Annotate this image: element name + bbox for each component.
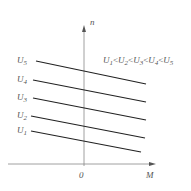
curve-label-u1: U1 [17,125,27,137]
curve-label-u3: U3 [17,92,28,104]
origin-label: 0 [79,170,84,180]
curves: U5U4U3U2U1 [17,55,146,152]
curve-u3 [33,98,146,120]
y-axis-arrow-icon [82,25,86,32]
x-axis-arrow-icon [149,162,156,166]
y-axis-label: n [90,17,95,27]
curve-label-u5: U5 [17,55,28,67]
mechanical-characteristic-diagram: n M 0 U5U4U3U2U1 U1<U2<U3<U4<U5 [0,0,191,191]
curve-u4 [33,80,146,102]
curve-label-u2: U2 [17,110,28,122]
x-axis-label: M [145,170,154,180]
condition-text: U1<U2<U3<U4<U5 [103,55,174,67]
curve-label-u4: U4 [17,74,28,86]
